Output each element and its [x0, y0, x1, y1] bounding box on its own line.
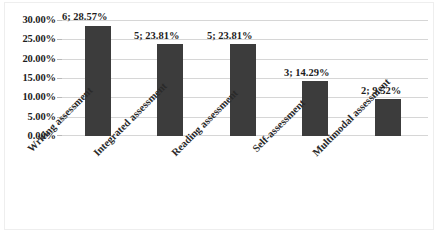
y-tick-label: 5.00% — [0, 112, 56, 123]
bar-value-label: 5; 23.81% — [134, 31, 180, 42]
bar-value-label: 6; 28.57% — [62, 12, 108, 23]
bar-multimodal-assessment[interactable] — [375, 99, 401, 136]
plot-area: 6; 28.57% 5; 23.81% 5; 23.81% 3; 14.29% … — [62, 20, 428, 136]
y-tick-label: 25.00% — [0, 34, 56, 45]
y-axis-labels: 30.00% 25.00% 20.00% 15.00% 10.00% 5.00%… — [0, 20, 56, 136]
gridline-30 — [62, 20, 428, 21]
x-axis-labels: Writing assessment Integrated assessment… — [0, 138, 439, 234]
bar-value-label: 3; 14.29% — [284, 68, 330, 79]
bar-chart-figure: 30.00% 25.00% 20.00% 15.00% 10.00% 5.00%… — [0, 0, 439, 234]
y-tick-label: 20.00% — [0, 54, 56, 65]
y-tick-label: 30.00% — [0, 15, 56, 26]
y-tick-label: 15.00% — [0, 73, 56, 84]
bar-writing-assessment[interactable] — [85, 26, 111, 137]
bar-value-label: 5; 23.81% — [207, 31, 253, 42]
bar-self-assessment[interactable] — [302, 81, 328, 136]
y-tick-label: 10.00% — [0, 92, 56, 103]
